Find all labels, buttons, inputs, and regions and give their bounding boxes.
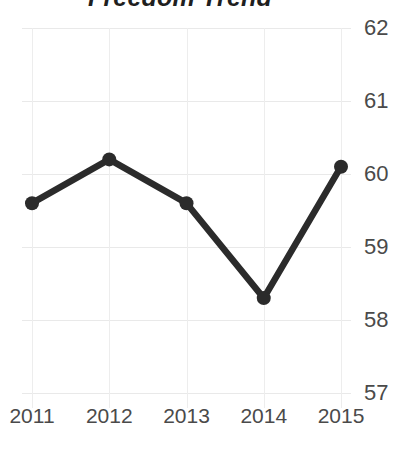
x-axis-tick-label: 2015 [296, 404, 386, 428]
data-point-marker [180, 196, 194, 210]
series-markers [25, 152, 348, 305]
plot-area [32, 28, 341, 393]
y-axis-tick-label: 61 [364, 88, 406, 114]
data-point-marker [25, 196, 39, 210]
line-chart: Freedom Trend 626160595857 2011201220132… [0, 0, 410, 457]
chart-title: Freedom Trend [0, 0, 360, 12]
data-point-marker [334, 160, 348, 174]
series-line [32, 159, 341, 298]
data-point-marker [257, 291, 271, 305]
gridline-vertical [341, 28, 342, 408]
y-axis-tick-label: 60 [364, 161, 406, 187]
y-axis-tick-label: 62 [364, 15, 406, 41]
data-point-marker [102, 152, 116, 166]
y-axis-tick-label: 58 [364, 307, 406, 333]
data-series-layer [32, 28, 341, 393]
y-axis-tick-label: 57 [364, 380, 406, 406]
y-axis-tick-label: 59 [364, 234, 406, 260]
